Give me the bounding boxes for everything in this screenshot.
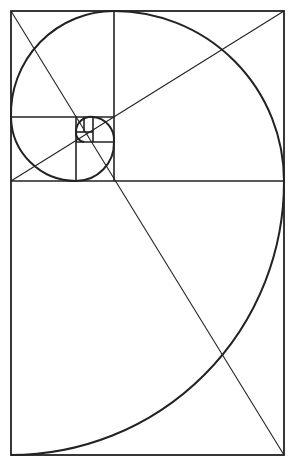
diagonal-lines	[11, 11, 284, 455]
diagonal-line	[11, 11, 284, 455]
golden-spiral-diagram	[0, 0, 295, 465]
diagonal-line	[11, 11, 284, 181]
